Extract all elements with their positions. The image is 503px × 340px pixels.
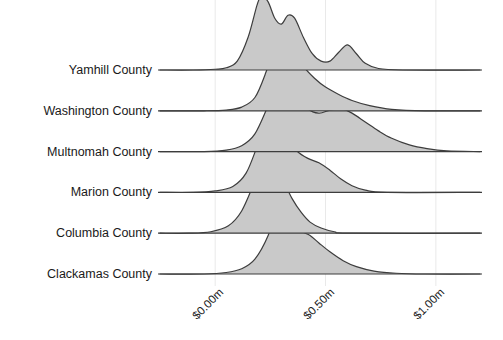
plot-area (160, 4, 480, 284)
y-axis-label: Washington County (43, 104, 152, 118)
y-axis-label: Clackamas County (47, 267, 152, 281)
ridge-outline (160, 0, 480, 70)
ridgeline-svg (160, 4, 480, 284)
x-axis-labels: $0.00m$0.50m$1.00m (160, 286, 500, 340)
ridge-yamhill-county (158, 0, 482, 70)
ridge-clackamas-county (158, 200, 482, 274)
ridge-fill (160, 200, 480, 274)
ridgeline-chart: Yamhill CountyWashington CountyMultnomah… (0, 0, 503, 340)
y-axis-label: Columbia County (56, 226, 152, 240)
y-axis-label: Yamhill County (69, 63, 152, 77)
x-axis-tick-label: $1.00m (411, 286, 447, 322)
y-axis-labels: Yamhill CountyWashington CountyMultnomah… (0, 0, 160, 340)
y-axis-label: Multnomah County (47, 145, 152, 159)
x-axis-tick-label: $0.50m (300, 286, 336, 322)
ridge-fill (160, 36, 480, 110)
ridge-fill (160, 0, 480, 70)
ridge-washington-county (158, 36, 482, 110)
y-axis-label: Marion County (71, 185, 152, 199)
x-axis-tick-label: $0.00m (190, 286, 226, 322)
